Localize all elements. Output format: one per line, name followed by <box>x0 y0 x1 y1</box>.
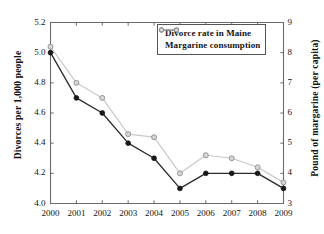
y-axis-left-tick-label: 4.4 <box>22 137 46 147</box>
y-axis-left-tick-label: 4.8 <box>22 77 46 87</box>
chart-container: Divorces per 1,000 people Pound of marga… <box>0 0 324 234</box>
y-axis-right-tick-label: 8 <box>288 47 312 57</box>
y-axis-right-tick-label: 5 <box>288 137 312 147</box>
y-axis-right-tick-label: 9 <box>288 17 312 27</box>
y-axis-left-tick-label: 5.2 <box>22 17 46 27</box>
y-axis-left-tick-label: 4.2 <box>22 167 46 177</box>
x-axis-tick-label: 2009 <box>267 208 301 218</box>
y-axis-left-tick-label: 4.0 <box>22 198 46 208</box>
y-axis-right-tick-label: 4 <box>288 167 312 177</box>
legend-item-margarine: Margarine consumption <box>162 39 260 51</box>
y-axis-left-tick-label: 4.6 <box>22 107 46 117</box>
legend: Divorce rate in Maine Margarine consumpt… <box>157 24 266 55</box>
y-axis-right-tick-label: 7 <box>288 77 312 87</box>
y-axis-left-tick-label: 5.0 <box>22 47 46 57</box>
y-axis-right-tick-label: 3 <box>288 198 312 208</box>
data-series <box>48 44 286 191</box>
legend-marker-margarine <box>158 25 180 35</box>
legend-label-margarine: Margarine consumption <box>165 40 260 50</box>
y-axis-right-tick-label: 6 <box>288 107 312 117</box>
